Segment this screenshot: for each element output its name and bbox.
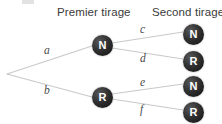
tree-edge-e [112,84,183,94]
tree-node-n1b: R [183,51,204,72]
tree-node-n2a: N [183,76,204,97]
edge-label-d: d [140,52,146,64]
tree-edge-f [112,99,183,110]
probability-tree-diagram: Premier tirage Second tirage NRNRNR abcd… [0,0,222,124]
column-header-premier-tirage: Premier tirage [57,6,131,18]
edge-label-e: e [140,76,145,88]
edge-label-b: b [44,84,50,96]
tree-edge-c [112,32,183,43]
tree-node-n1: N [92,35,113,56]
edge-label-c: c [140,23,145,35]
edge-label-a: a [44,44,50,56]
edge-label-f: f [140,103,143,115]
tree-node-n2: R [92,87,113,108]
tree-node-n2b: R [183,102,204,123]
tree-edge-d [112,48,183,59]
tree-node-n1a: N [183,24,204,45]
column-header-second-tirage: Second tirage [152,6,222,18]
